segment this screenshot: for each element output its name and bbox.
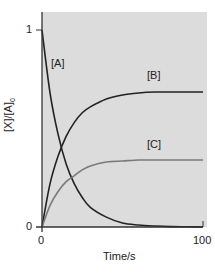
series-label-b: [B] [147, 69, 160, 81]
x-tick-label-0: 0 [38, 234, 44, 246]
series-label-a: [A] [51, 57, 64, 69]
kinetics-chart [0, 0, 215, 274]
y-tick-label-0: 0 [26, 220, 32, 232]
plot-area [42, 12, 207, 227]
y-axis-label-main: [X]/[A] [2, 102, 14, 132]
y-tick-label-1: 1 [26, 23, 32, 35]
series-label-c: [C] [147, 138, 161, 150]
y-axis-label: [X]/[A]0 [2, 98, 16, 132]
x-axis-label: Time/s [103, 250, 136, 262]
x-tick-label-100: 100 [193, 234, 211, 246]
y-axis-label-sub: 0 [9, 98, 16, 102]
